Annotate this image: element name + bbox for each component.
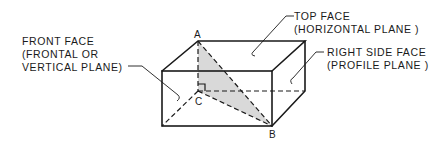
arrow-right-face	[291, 78, 293, 84]
point-a-label: A	[194, 29, 201, 40]
top-face-edges	[162, 41, 305, 71]
front-face-label-line1: FRONT FACE	[22, 35, 123, 48]
right-side-face-label-line1: RIGHT SIDE FACE	[327, 46, 429, 59]
top-face-label: TOP FACE (HORIZONTAL PLANE )	[294, 10, 419, 36]
leader-right-face	[293, 52, 324, 78]
arrow-top-face	[252, 52, 255, 56]
front-face-label: FRONT FACE (FRONTAL OR VERTICAL PLANE)	[22, 35, 123, 74]
point-b-label: B	[269, 129, 276, 140]
right-face-edges	[272, 41, 305, 126]
front-face-label-line3: VERTICAL PLANE)	[22, 61, 123, 74]
right-side-face-label: RIGHT SIDE FACE (PROFILE PLANE )	[327, 46, 429, 72]
arrow-front-face	[177, 95, 179, 101]
right-side-face-label-line2: (PROFILE PLANE )	[327, 59, 429, 72]
top-face-label-line1: TOP FACE	[294, 10, 419, 23]
hidden-edge-c-frontleft	[162, 91, 198, 126]
top-face-label-line2: (HORIZONTAL PLANE )	[294, 23, 419, 36]
front-face-label-line2: (FRONTAL OR	[22, 48, 123, 61]
leader-top-face	[253, 16, 294, 52]
point-c-label: C	[195, 96, 202, 107]
